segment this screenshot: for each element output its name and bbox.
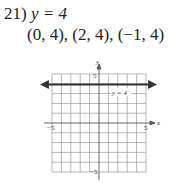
line-y-equals-4 — [42, 82, 155, 88]
coordinate-graph: x y −5 5 5 −5 y = 4 — [0, 0, 181, 187]
x-max-label: 5 — [144, 124, 148, 132]
y-min-label: −5 — [90, 168, 98, 176]
axes — [44, 64, 155, 180]
x-axis-label: x — [156, 119, 161, 127]
line-label: y = 4 — [111, 89, 127, 97]
y-max-label: 5 — [93, 72, 97, 80]
x-min-label: −5 — [47, 124, 55, 132]
